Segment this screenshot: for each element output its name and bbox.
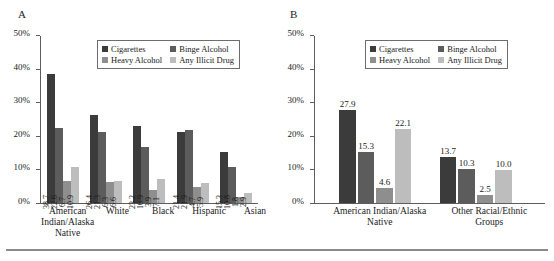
y-axis-tick: 40% <box>310 69 314 70</box>
bar-any-illicit-drug[interactable]: 5.9 <box>201 183 209 203</box>
figure-container: A0%10%20%30%40%50%38.722.66.710.926.421.… <box>0 0 554 261</box>
y-axis-tick-label: 0% <box>18 196 30 206</box>
x-axis-labels: American Indian/Alaska NativeWhiteBlackH… <box>41 206 278 239</box>
chart-legend: CigarettesBinge AlcoholHeavy AlcoholAny … <box>97 40 240 69</box>
y-axis-tick-label: 50% <box>14 28 31 38</box>
y-axis-tick: 50% <box>36 35 40 36</box>
y-axis-tick-label: 30% <box>14 95 31 105</box>
bar-binge-alcohol[interactable]: 16.9 <box>141 147 149 203</box>
x-axis-label: White <box>94 206 140 239</box>
legend-item-binge-alcohol[interactable]: Binge Alcohol <box>438 44 502 54</box>
figure-bottom-rule <box>6 249 548 251</box>
bar-heavy-alcohol[interactable]: 2.5 <box>477 195 494 203</box>
y-axis-tick-label: 10% <box>14 162 31 172</box>
bar-cigarettes[interactable]: 27.9 <box>339 110 356 203</box>
bar-cigarettes[interactable]: 23.2 <box>133 126 141 203</box>
bar-binge-alcohol[interactable]: 21.3 <box>98 132 106 203</box>
y-axis-tick-label: 10% <box>288 162 305 172</box>
bar-wrap: 10.9 <box>71 36 79 203</box>
bar-wrap: 6.7 <box>63 36 71 203</box>
bar-value-label: 2.5 <box>479 184 490 194</box>
bar-value-label: 10.0 <box>496 159 512 169</box>
bar-any-illicit-drug[interactable]: 22.1 <box>395 129 412 203</box>
legend-label: Binge Alcohol <box>447 44 496 54</box>
chart-legend: CigarettesBinge AlcoholHeavy AlcoholAny … <box>365 40 508 69</box>
legend-item-cigarettes[interactable]: Cigarettes <box>370 44 430 54</box>
bar-heavy-alcohol[interactable]: 4.6 <box>376 188 393 203</box>
bar-value-label: 27.9 <box>340 99 356 109</box>
bar-any-illicit-drug[interactable]: 6.6 <box>114 181 122 203</box>
legend-label: Any Illicit Drug <box>179 55 234 65</box>
bar-value-label: 13.7 <box>440 146 456 156</box>
y-axis-tick: 30% <box>36 102 40 103</box>
y-axis-tick: 0% <box>36 203 40 204</box>
bar-value-label: 15.3 <box>358 141 374 151</box>
x-axis <box>314 203 545 204</box>
x-axis-label: American Indian/Alaska Native <box>41 206 94 239</box>
panel-letter-b: B <box>290 8 298 20</box>
y-axis-tick-label: 0% <box>292 196 304 206</box>
bar-binge-alcohol[interactable]: 22.6 <box>55 128 63 203</box>
bar-value-label: 10.3 <box>459 158 475 168</box>
panel-letter-a: A <box>18 8 26 20</box>
legend-swatch-icon <box>170 46 176 52</box>
bar-wrap: 2.9 <box>244 36 252 203</box>
y-axis-tick: 50% <box>310 35 314 36</box>
x-axis-label: Asian <box>232 206 278 239</box>
y-axis-tick: 20% <box>36 136 40 137</box>
bar-binge-alcohol[interactable]: 21.9 <box>185 130 193 203</box>
y-axis-tick-label: 40% <box>14 62 31 72</box>
legend-item-any-illicit-drug[interactable]: Any Illicit Drug <box>438 55 502 65</box>
legend-swatch-icon <box>438 46 444 52</box>
bar-value-label: 4.6 <box>379 177 390 187</box>
legend-item-any-illicit-drug[interactable]: Any Illicit Drug <box>170 55 234 65</box>
x-axis-label: Black <box>140 206 186 239</box>
legend-swatch-icon <box>102 46 108 52</box>
y-axis-tick-label: 30% <box>288 95 305 105</box>
y-axis-tick: 30% <box>310 102 314 103</box>
legend-swatch-icon <box>370 46 376 52</box>
legend-label: Any Illicit Drug <box>447 55 502 65</box>
bar-binge-alcohol[interactable]: 10.3 <box>458 169 475 203</box>
bar-cigarettes[interactable]: 38.7 <box>47 74 55 203</box>
bar-cigarettes[interactable]: 21.4 <box>177 132 185 203</box>
bar-cigarettes[interactable]: 13.7 <box>440 157 457 203</box>
legend-swatch-icon <box>170 57 176 63</box>
x-axis-label: American Indian/Alaska Native <box>330 206 430 228</box>
legend-label: Heavy Alcohol <box>111 55 162 65</box>
bar-group: 38.722.66.710.9 <box>45 36 81 203</box>
bar-value-label: 22.1 <box>395 118 411 128</box>
legend-label: Cigarettes <box>111 44 145 54</box>
y-axis-tick: 20% <box>310 136 314 137</box>
bar-wrap: 27.9 <box>339 36 356 203</box>
legend-label: Binge Alcohol <box>179 44 228 54</box>
bar-any-illicit-drug[interactable]: 2.9 <box>244 193 252 203</box>
legend-swatch-icon <box>102 57 108 63</box>
y-axis-tick-label: 20% <box>288 129 305 139</box>
y-axis-tick-label: 40% <box>288 62 305 72</box>
bar-wrap: 22.6 <box>55 36 63 203</box>
legend-item-heavy-alcohol[interactable]: Heavy Alcohol <box>102 55 162 65</box>
bar-any-illicit-drug[interactable]: 10.0 <box>495 170 512 203</box>
bar-any-illicit-drug[interactable]: 7.1 <box>157 179 165 203</box>
legend-label: Heavy Alcohol <box>379 55 430 65</box>
bar-wrap: 38.7 <box>47 36 55 203</box>
legend-item-heavy-alcohol[interactable]: Heavy Alcohol <box>370 55 430 65</box>
bar-any-illicit-drug[interactable]: 10.9 <box>71 167 79 203</box>
legend-item-cigarettes[interactable]: Cigarettes <box>102 44 162 54</box>
legend-swatch-icon <box>438 57 444 63</box>
y-axis-tick: 40% <box>36 69 40 70</box>
panel-a: A0%10%20%30%40%50%38.722.66.710.926.421.… <box>0 0 278 246</box>
y-axis-tick-label: 50% <box>288 28 305 38</box>
x-axis-label: Other Racial/Ethnic Groups <box>439 206 539 228</box>
y-axis-tick: 10% <box>36 169 40 170</box>
y-axis-tick-label: 20% <box>14 129 31 139</box>
x-axis-labels: American Indian/Alaska NativeOther Racia… <box>315 206 554 228</box>
bar-cigarettes[interactable]: 26.4 <box>90 115 98 203</box>
legend-item-binge-alcohol[interactable]: Binge Alcohol <box>170 44 234 54</box>
y-axis-tick: 0% <box>310 203 314 204</box>
panel-b: B0%10%20%30%40%50%27.915.34.622.113.710.… <box>276 0 554 246</box>
bar-binge-alcohol[interactable]: 15.3 <box>358 152 375 203</box>
y-axis-tick: 10% <box>310 169 314 170</box>
legend-swatch-icon <box>370 57 376 63</box>
